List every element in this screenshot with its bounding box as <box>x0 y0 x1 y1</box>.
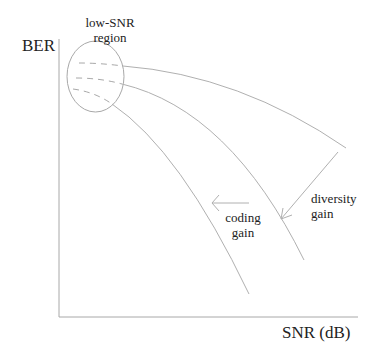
dashed-curve-2 <box>76 78 122 84</box>
coding-gain-arrow <box>212 195 249 211</box>
region-label-line1: low-SNR <box>85 15 134 30</box>
x-axis-label: SNR (dB) <box>282 323 350 342</box>
ber-curve-2 <box>122 84 304 260</box>
ber-curve-3 <box>112 104 249 294</box>
coding-gain-line2: gain <box>232 225 255 240</box>
ber-vs-snr-diagram: BER SNR (dB) low-SNR region coding gain … <box>0 0 379 357</box>
y-axis-label: BER <box>22 36 56 55</box>
diversity-gain-line2: gain <box>311 206 334 221</box>
dashed-curve-1 <box>79 63 123 66</box>
region-label-line2: region <box>93 30 127 45</box>
coding-gain-line1: coding <box>225 210 261 225</box>
diversity-gain-line1: diversity <box>311 191 357 206</box>
low-snr-region-ellipse <box>67 41 124 112</box>
dashed-curve-3 <box>73 89 112 104</box>
ber-curve-1 <box>123 66 346 148</box>
